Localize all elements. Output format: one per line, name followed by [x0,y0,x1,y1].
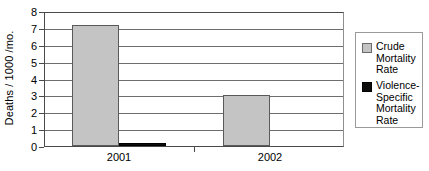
chart-legend: Crude Mortality Rate Violence- Specific … [355,32,423,128]
y-tick-label-3: 3 [15,90,37,102]
y-tick-label-6: 6 [15,40,37,52]
x-group-separator-tick [194,147,195,152]
y-tick-label-7: 7 [15,23,37,35]
legend-entry-violence: Violence- Specific Mortality Rate [362,80,420,126]
legend-label-violence: Violence- Specific Mortality Rate [376,80,420,126]
y-tick-label-2: 2 [15,107,37,119]
black-swatch-icon [362,82,372,92]
legend-label-crude: Crude Mortality Rate [376,41,416,76]
y-tick-label-0: 0 [15,141,37,153]
y-tick-mark-0 [39,147,44,148]
bar-crude-2002 [223,95,270,146]
y-tick-label-1: 1 [15,124,37,136]
y-axis-title-text: Deaths / 1000 /mo. [3,30,15,125]
legend-entry-crude: Crude Mortality Rate [362,41,416,76]
bar-crude-2001 [72,25,119,147]
plot-area [44,12,344,147]
x-group-label-2001: 2001 [107,151,131,163]
y-tick-label-8: 8 [15,6,37,18]
x-group-label-2002: 2002 [258,151,282,163]
y-tick-label-4: 4 [15,74,37,86]
gray-swatch-icon [362,43,372,53]
bar-violence-2001 [119,143,166,147]
y-tick-label-5: 5 [15,57,37,69]
bar-chart-figure: Deaths / 1000 /mo. 8 7 6 5 4 3 2 1 0 200… [0,0,429,171]
